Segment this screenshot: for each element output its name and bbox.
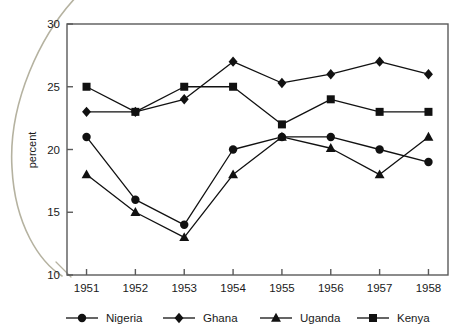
- x-tick-label-1956: 1956: [318, 282, 344, 294]
- data-point-kenya-1953: [180, 83, 188, 91]
- y-tick-label-30: 30: [47, 18, 60, 30]
- legend-label-ghana: Ghana: [203, 312, 238, 324]
- line-chart-figure: 1015202530 19511952195319541955195619571…: [0, 0, 471, 336]
- x-tick-label-1952: 1952: [123, 282, 149, 294]
- x-tick-label-1951: 1951: [74, 282, 100, 294]
- data-point-kenya-1954: [229, 83, 237, 91]
- y-tick-label-15: 15: [47, 206, 60, 218]
- x-tick-label-1957: 1957: [367, 282, 393, 294]
- data-point-nigeria-1956: [327, 133, 335, 141]
- x-tick-label-1958: 1958: [416, 282, 442, 294]
- data-point-nigeria-1957: [375, 145, 383, 153]
- data-point-kenya-1958: [424, 108, 432, 116]
- data-point-nigeria-1951: [82, 133, 90, 141]
- y-axis-label: percent: [26, 132, 38, 169]
- data-point-kenya-1955: [278, 120, 286, 128]
- y-tick-label-25: 25: [47, 81, 60, 93]
- data-point-nigeria-1953: [180, 221, 188, 229]
- legend-label-kenya: Kenya: [397, 312, 430, 324]
- data-point-kenya-1952: [131, 108, 139, 116]
- data-point-nigeria-1952: [131, 196, 139, 204]
- x-tick-label-1954: 1954: [220, 282, 246, 294]
- y-tick-label-10: 10: [47, 269, 60, 281]
- legend-label-nigeria: Nigeria: [106, 312, 143, 324]
- data-point-kenya-1957: [376, 108, 384, 116]
- data-point-nigeria-1958: [424, 158, 432, 166]
- x-tick-label-1955: 1955: [269, 282, 295, 294]
- legend-label-uganda: Uganda: [300, 312, 341, 324]
- legend-marker-circle-icon: [78, 314, 86, 322]
- y-tick-label-20: 20: [47, 144, 60, 156]
- data-point-nigeria-1954: [229, 145, 237, 153]
- x-tick-label-1953: 1953: [171, 282, 197, 294]
- data-point-kenya-1956: [327, 95, 335, 103]
- legend-marker-square-icon: [369, 314, 377, 322]
- data-point-kenya-1951: [83, 83, 91, 91]
